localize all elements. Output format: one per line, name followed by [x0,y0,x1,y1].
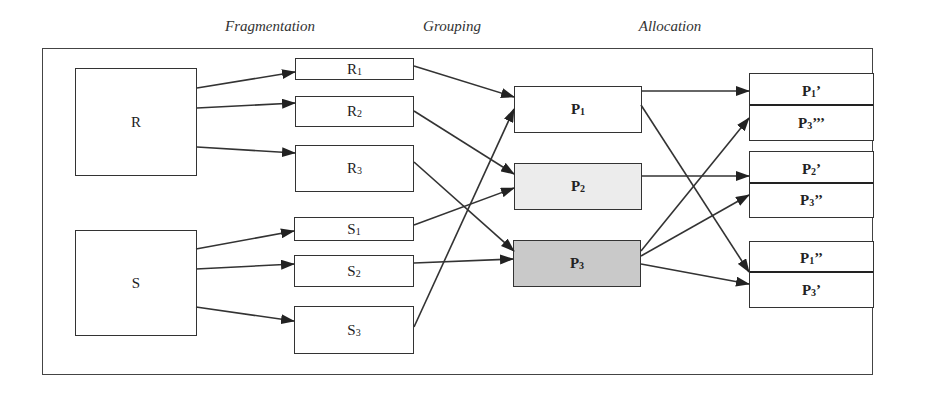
group-p3-label: P [570,255,579,272]
allocation-site-3-bottom: P3’ [750,271,873,307]
cell-label: P [802,83,811,100]
cell-label: P [800,192,809,209]
allocation-site-1-top: P1’ [750,74,873,108]
fragment-s1-sub: 1 [356,226,361,237]
group-p2-label: P [571,178,580,195]
fragment-r1: R1 [295,58,414,80]
stage-title-allocation: Allocation [639,18,702,35]
group-p2-sub: 2 [580,183,585,194]
fragment-s2-label: S [347,263,355,280]
cell-sub: 3 [809,197,814,208]
allocation-site-2-top: P2’ [750,152,873,186]
fragment-r3-label: R [347,160,357,177]
fragment-r1-label: R [347,61,357,78]
relation-r-label: R [131,114,141,131]
group-p3-sub: 3 [579,260,584,271]
allocation-site-3: P1’’ P3’ [749,241,874,308]
cell-label: P [800,250,809,267]
cell-sub: 3 [807,120,812,131]
cell-sub: 2 [811,166,816,177]
fragment-r2: R2 [295,96,414,127]
fragment-s1-label: S [347,221,355,238]
relation-s: S [75,230,197,336]
fragment-r2-sub: 2 [357,108,362,119]
fragment-r3: R3 [295,145,414,192]
fragment-r2-label: R [347,103,357,120]
stage-title-grouping: Grouping [423,18,481,35]
group-p1-sub: 1 [580,106,585,117]
cell-label: P [802,282,811,299]
fragment-r3-sub: 3 [357,165,362,176]
fragment-s2: S2 [294,255,414,287]
cell-prime: ’’ [814,192,823,209]
cell-sub: 1 [811,88,816,99]
cell-label: P [802,161,811,178]
cell-prime: ’ [816,83,821,100]
fragment-r1-sub: 1 [357,66,362,77]
allocation-site-1: P1’ P3’’’ [749,73,874,141]
fragment-s1: S1 [294,217,414,241]
group-p2: P2 [514,163,642,210]
cell-prime: ’’ [814,250,823,267]
group-p1: P1 [514,86,642,133]
cell-prime: ’ [816,161,821,178]
allocation-site-1-bottom: P3’’’ [750,104,873,140]
allocation-site-2: P2’ P3’’ [749,151,874,218]
fragment-s3-label: S [347,322,355,339]
cell-label: P [798,115,807,132]
allocation-site-3-top: P1’’ [750,242,873,274]
cell-sub: 3 [811,287,816,298]
relation-s-label: S [132,275,140,292]
cell-prime: ’ [816,282,821,299]
allocation-site-2-bottom: P3’’ [750,182,873,217]
group-p1-label: P [571,101,580,118]
fragment-s3-sub: 3 [356,327,361,338]
relation-r: R [75,68,197,176]
stage-title-fragmentation: Fragmentation [225,18,315,35]
fragment-s2-sub: 2 [356,268,361,279]
fragment-s3: S3 [294,306,414,354]
cell-sub: 1 [809,255,814,266]
cell-prime: ’’’ [812,115,825,132]
group-p3: P3 [513,240,641,287]
